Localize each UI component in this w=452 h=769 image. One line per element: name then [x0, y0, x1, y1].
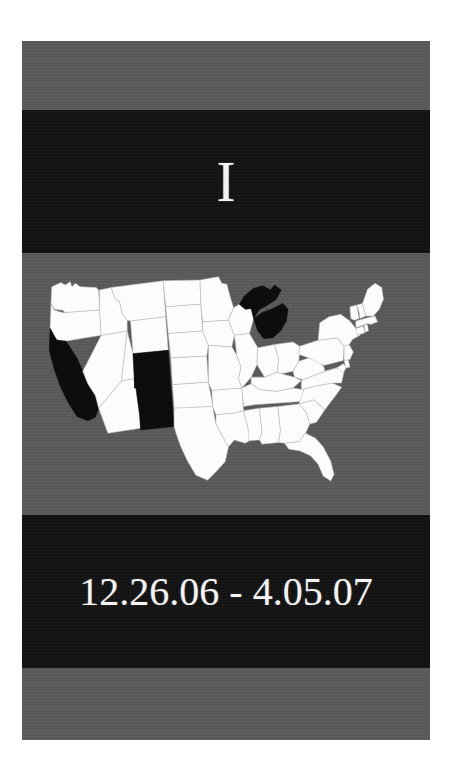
state-nj — [344, 344, 353, 360]
state-ri — [364, 324, 368, 332]
bottom-gray-band — [22, 668, 430, 740]
state-sd — [166, 304, 203, 333]
state-al — [260, 406, 281, 444]
state-ne — [168, 331, 208, 358]
state-ks — [171, 356, 209, 384]
slide-panel: I — [22, 41, 430, 740]
state-ar — [212, 388, 244, 415]
state-mn — [200, 277, 234, 322]
state-ok — [172, 382, 212, 408]
map-band — [22, 253, 430, 515]
state-me — [363, 283, 384, 316]
state-wy — [131, 317, 169, 354]
title-letter: I — [22, 110, 430, 253]
top-gray-band — [22, 41, 430, 110]
us-map-svg — [25, 255, 427, 511]
state-wa — [51, 282, 100, 313]
state-co — [133, 350, 171, 388]
title-band: I — [22, 110, 430, 253]
state-in — [257, 344, 279, 377]
us-map-figure — [22, 253, 430, 515]
date-band: 12.26.06 - 4.05.07 — [22, 515, 430, 668]
state-ia — [203, 320, 235, 347]
state-nd — [163, 280, 201, 307]
date-range-text: 12.26.06 - 4.05.07 — [22, 515, 430, 668]
